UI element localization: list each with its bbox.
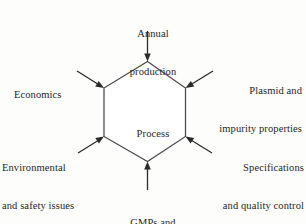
input-label-plasmid-line1: Plasmid and bbox=[219, 85, 302, 98]
input-label-economics-line1: Economics bbox=[14, 89, 62, 102]
input-label-gmps-line1: GMPs and bbox=[0, 217, 306, 224]
diagram-canvas: Process Annual production Economics Plas… bbox=[0, 0, 306, 224]
input-label-gmps-and-validation: GMPs and validation bbox=[0, 192, 306, 224]
input-label-plasmid-line2: impurity properties bbox=[219, 123, 302, 136]
input-label-environmental-line1: Environmental bbox=[2, 162, 74, 175]
input-label-specifications-line1: Specifications bbox=[223, 162, 304, 175]
input-label-annual-production-line1: Annual bbox=[0, 28, 306, 41]
input-label-economics: Economics bbox=[14, 64, 62, 127]
